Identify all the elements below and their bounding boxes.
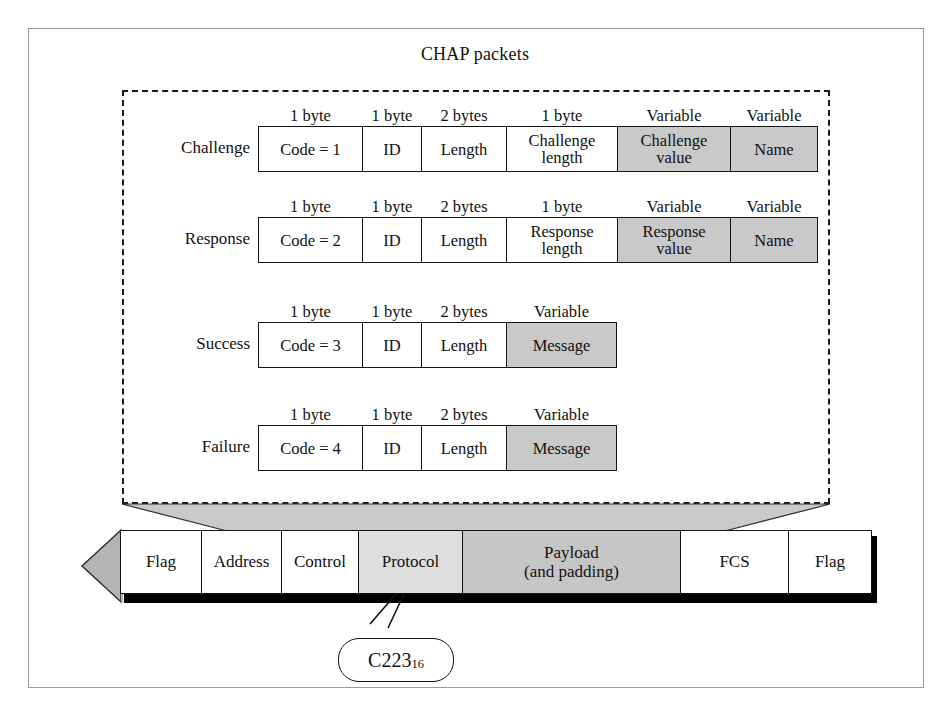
packet-field: 1 byteCode = 4: [258, 425, 362, 471]
field-size-label: 1 byte: [363, 107, 421, 127]
ppp-frame-cell: Flag: [788, 530, 872, 594]
ppp-frame-cell: Protocol: [358, 530, 462, 594]
field-size-label: Variable: [507, 303, 616, 323]
packet-row-label: Failure: [202, 437, 250, 457]
field-size-label: 1 byte: [507, 107, 617, 127]
packet-field-list: 1 byteCode = 21 byteID2 bytesLength1 byt…: [258, 217, 818, 263]
packet-row-label: Response: [185, 229, 250, 249]
field-text: Length: [441, 141, 488, 158]
ppp-frame-cells: FlagAddressControlProtocolPayload(and pa…: [120, 530, 872, 594]
packet-field: VariableChallengevalue: [617, 126, 730, 172]
field-text: ID: [383, 337, 400, 354]
field-size-label: 2 bytes: [422, 406, 506, 426]
field-text: Message: [533, 337, 591, 354]
packet-field: 2 bytesLength: [421, 126, 506, 172]
packet-field: 1 byteResponselength: [506, 217, 617, 263]
packet-field: 1 byteCode = 2: [258, 217, 362, 263]
field-text: Code = 3: [280, 337, 341, 354]
packet-field: VariableMessage: [506, 322, 617, 368]
packet-field: VariableName: [730, 217, 818, 263]
field-text: Code = 1: [280, 141, 341, 158]
packet-field: VariableMessage: [506, 425, 617, 471]
field-text: Length: [441, 440, 488, 457]
field-text: Name: [754, 141, 793, 158]
field-size-label: Variable: [731, 107, 817, 127]
field-size-label: Variable: [507, 406, 616, 426]
ppp-frame-cell: Address: [201, 530, 281, 594]
packet-field-list: 1 byteCode = 11 byteID2 bytesLength1 byt…: [258, 126, 818, 172]
packet-row-label: Challenge: [181, 138, 250, 158]
packet-row-label: Success: [196, 334, 250, 354]
packet-field: 1 byteID: [362, 425, 421, 471]
packet-field: 1 byteID: [362, 217, 421, 263]
packet-field: 1 byteCode = 3: [258, 322, 362, 368]
field-text: ID: [383, 141, 400, 158]
packet-field: VariableName: [730, 126, 818, 172]
packet-field-list: 1 byteCode = 31 byteID2 bytesLengthVaria…: [258, 322, 617, 368]
field-size-label: 1 byte: [259, 406, 362, 426]
field-text: ID: [383, 440, 400, 457]
protocol-callout-leader: [330, 592, 410, 642]
packet-field: VariableResponsevalue: [617, 217, 730, 263]
callout-subscript: 16: [411, 657, 424, 672]
field-size-label: 1 byte: [259, 303, 362, 323]
field-size-label: 1 byte: [507, 198, 617, 218]
packet-field: 1 byteID: [362, 126, 421, 172]
field-text: Responsevalue: [642, 223, 705, 257]
packet-field-list: 1 byteCode = 41 byteID2 bytesLengthVaria…: [258, 425, 617, 471]
field-size-label: 1 byte: [259, 198, 362, 218]
packet-field: 1 byteID: [362, 322, 421, 368]
field-text: Name: [754, 232, 793, 249]
field-text: Challengevalue: [641, 132, 708, 166]
field-size-label: 1 byte: [363, 303, 421, 323]
field-text: Code = 4: [280, 440, 341, 457]
field-size-label: 1 byte: [363, 198, 421, 218]
ppp-frame-cell: Control: [281, 530, 358, 594]
field-text: ID: [383, 232, 400, 249]
field-text: Responselength: [530, 223, 593, 257]
field-size-label: Variable: [731, 198, 817, 218]
callout-value: C223: [368, 649, 411, 672]
field-text: Message: [533, 440, 591, 457]
field-size-label: 2 bytes: [422, 107, 506, 127]
field-size-label: Variable: [618, 198, 730, 218]
ppp-frame-cell: Payload(and padding): [462, 530, 680, 594]
field-text: Code = 2: [280, 232, 341, 249]
ppp-frame-cell: Flag: [120, 530, 201, 594]
ppp-frame-cell: FCS: [680, 530, 788, 594]
field-text: Challengelength: [529, 132, 596, 166]
field-size-label: Variable: [618, 107, 730, 127]
packet-field: 2 bytesLength: [421, 322, 506, 368]
figure-canvas: CHAP packets Challenge1 byteCode = 11 by…: [0, 0, 950, 715]
field-text: Length: [441, 337, 488, 354]
packet-field: 2 bytesLength: [421, 217, 506, 263]
packet-field: 2 bytesLength: [421, 425, 506, 471]
packet-field: 1 byteChallengelength: [506, 126, 617, 172]
field-text: Length: [441, 232, 488, 249]
packet-field: 1 byteCode = 1: [258, 126, 362, 172]
protocol-callout-bubble: C22316: [338, 638, 454, 682]
field-size-label: 1 byte: [259, 107, 362, 127]
field-size-label: 2 bytes: [422, 198, 506, 218]
field-size-label: 2 bytes: [422, 303, 506, 323]
page-title: CHAP packets: [0, 44, 950, 65]
field-size-label: 1 byte: [363, 406, 421, 426]
